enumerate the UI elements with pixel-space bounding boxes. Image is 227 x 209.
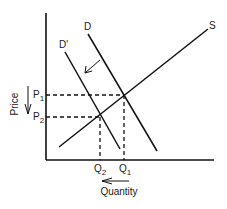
demand-curve <box>88 34 157 151</box>
q2-label: Q2 <box>94 163 107 177</box>
supply-label: S <box>209 20 216 31</box>
quantity-axis-label: Quantity <box>100 186 137 197</box>
supply-demand-diagram: S D D' P1 P2 Q2 Q1 Price Quantity <box>0 0 227 209</box>
shifted-demand-label: D' <box>59 39 68 50</box>
p1-label: P1 <box>33 89 45 103</box>
price-axis-label: Price <box>9 92 20 115</box>
demand-label: D <box>84 21 91 32</box>
supply-curve <box>59 29 208 147</box>
quantity-left-arrow-icon <box>102 178 129 184</box>
q1-label: Q1 <box>119 163 132 177</box>
price-down-arrow-icon <box>25 86 31 114</box>
demand-shift-arrow-icon <box>85 60 100 73</box>
p2-label: P2 <box>33 111 45 125</box>
